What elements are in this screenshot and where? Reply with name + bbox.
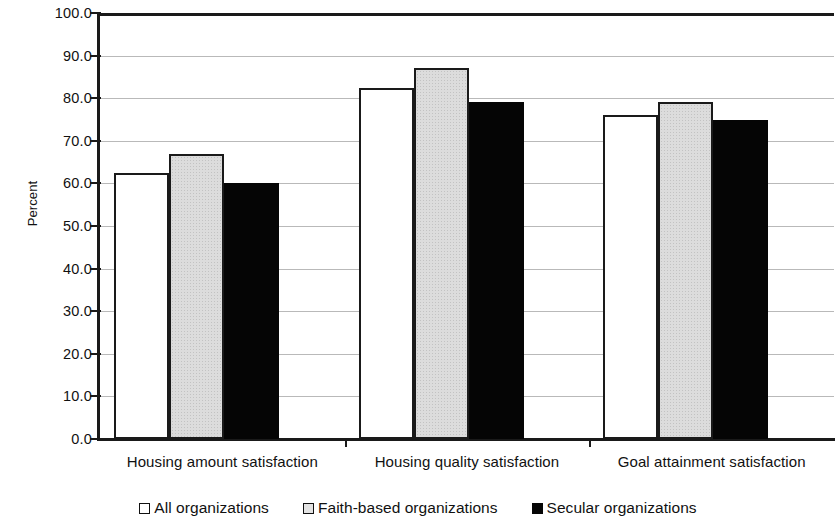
y-axis-tick-label: 80.0 (0, 91, 92, 105)
y-axis-tick-mark (90, 12, 101, 14)
legend-item: Secular organizations (532, 499, 697, 517)
plot-top-border (100, 13, 834, 16)
legend-label: Secular organizations (547, 499, 697, 517)
legend-item: All organizations (139, 499, 269, 517)
legend-swatch-icon (532, 503, 543, 514)
x-axis-category-labels: Housing amount satisfactionHousing quali… (100, 452, 836, 478)
bar (224, 183, 279, 439)
bar (603, 115, 658, 439)
y-axis-tick-mark (90, 438, 101, 440)
chart-legend: All organizationsFaith-based organizatio… (0, 494, 836, 522)
legend-swatch-icon (139, 503, 150, 514)
y-axis-tick-label: 0.0 (0, 432, 92, 446)
y-axis-tick-label: 40.0 (0, 262, 92, 276)
bar (114, 173, 169, 439)
bar (469, 102, 524, 439)
y-axis-tick-mark (90, 225, 101, 227)
y-axis-tick-label: 30.0 (0, 304, 92, 318)
y-axis-tick-mark (90, 140, 101, 142)
bar (713, 120, 768, 440)
legend-label: All organizations (154, 499, 269, 517)
y-axis-tick-label: 50.0 (0, 219, 92, 233)
bar (169, 154, 224, 439)
y-axis-tick-label: 70.0 (0, 134, 92, 148)
legend-item: Faith-based organizations (303, 499, 498, 517)
y-axis-tick-mark (90, 395, 101, 397)
category-separator-tick (589, 439, 591, 447)
y-axis-tick-label: 10.0 (0, 389, 92, 403)
bar (359, 88, 414, 439)
y-axis-tick-mark (90, 97, 101, 99)
y-axis-tick-mark (90, 310, 101, 312)
y-axis-tick-mark (90, 182, 101, 184)
y-axis-tick-label: 90.0 (0, 49, 92, 63)
bar (414, 68, 469, 439)
legend-swatch-icon (303, 503, 314, 514)
gridline (100, 56, 834, 57)
y-axis-tick-labels: 100.090.080.070.060.050.040.030.020.010.… (0, 0, 92, 452)
y-axis-tick-mark (90, 353, 101, 355)
x-axis-category-label: Housing quality satisfaction (345, 452, 590, 472)
legend-label: Faith-based organizations (318, 499, 498, 517)
plot-area (100, 13, 834, 439)
y-axis-tick-mark (90, 268, 101, 270)
x-axis-category-label: Goal attainment satisfaction (589, 452, 834, 472)
y-axis-tick-mark (90, 55, 101, 57)
y-axis-tick-label: 20.0 (0, 347, 92, 361)
bar-chart: Percent 100.090.080.070.060.050.040.030.… (0, 0, 836, 523)
y-axis-tick-label: 60.0 (0, 176, 92, 190)
category-separator-tick (345, 439, 347, 447)
y-axis-tick-label: 100.0 (0, 6, 92, 20)
x-axis-category-label: Housing amount satisfaction (100, 452, 345, 472)
bar (658, 102, 713, 439)
